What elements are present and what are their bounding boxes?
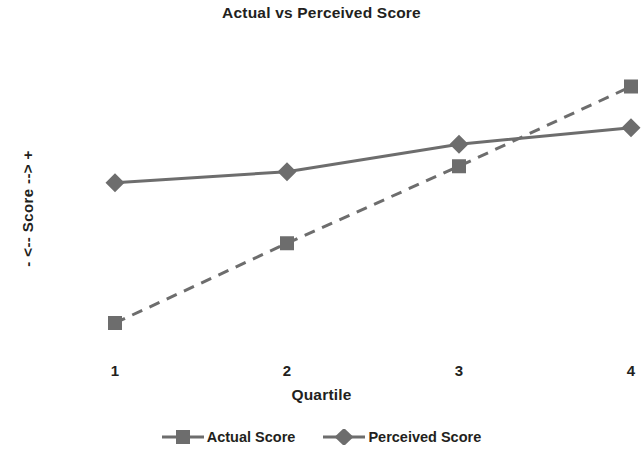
x-axis-tick-1: 1 (85, 362, 145, 379)
x-axis-tick-2: 2 (257, 362, 317, 379)
legend-label: Perceived Score (368, 429, 481, 445)
x-axis-tick-4: 4 (601, 362, 643, 379)
square-marker-icon (162, 429, 204, 445)
x-axis-tick-3: 3 (429, 362, 489, 379)
chart-container: Actual vs Perceived Score - <-- Score --… (0, 0, 643, 460)
legend-item-actual-score[interactable]: Actual Score (162, 429, 296, 445)
chart-legend: Actual ScorePerceived Score (0, 429, 643, 445)
diamond-marker-icon (323, 429, 365, 445)
legend-item-perceived-score[interactable]: Perceived Score (323, 429, 481, 445)
legend-label: Actual Score (207, 429, 296, 445)
x-axis-label: Quartile (0, 386, 643, 404)
